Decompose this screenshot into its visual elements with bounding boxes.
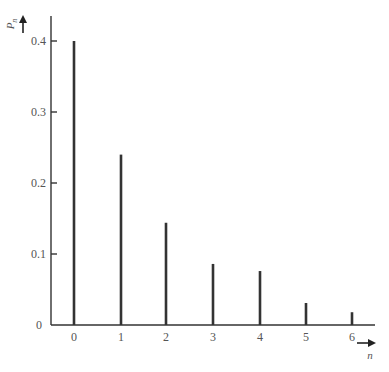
- x-axis-arrow-icon: [357, 339, 376, 347]
- y-tick-label: 0: [36, 318, 42, 332]
- stems: [74, 41, 352, 325]
- x-axis-label: n: [367, 349, 373, 361]
- svg-text:Pn: Pn: [4, 19, 19, 31]
- y-tick-label: 0.2: [31, 176, 46, 190]
- y-tick-label: 0.1: [31, 247, 46, 261]
- y-axis-label-sub: n: [10, 19, 19, 23]
- x-tick-label: 6: [349, 330, 355, 344]
- y-ticks: 00.10.20.30.4: [31, 34, 57, 332]
- x-ticks: 0123456: [71, 330, 355, 344]
- stem-chart: Pn 00.10.20.30.4 0123456 n: [0, 0, 389, 372]
- x-tick-label: 2: [163, 330, 169, 344]
- x-tick-label: 4: [257, 330, 263, 344]
- y-tick-label: 0.3: [31, 105, 46, 119]
- y-axis-label: Pn: [4, 19, 19, 31]
- x-tick-label: 3: [210, 330, 216, 344]
- x-tick-label: 1: [118, 330, 124, 344]
- y-axis-arrow-icon: [19, 15, 27, 33]
- x-tick-label: 5: [303, 330, 309, 344]
- y-tick-label: 0.4: [31, 34, 46, 48]
- x-tick-label: 0: [71, 330, 77, 344]
